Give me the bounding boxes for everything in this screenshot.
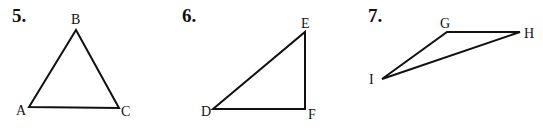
problem-number: 6. — [182, 5, 196, 26]
vertex-label-d: D — [201, 104, 211, 119]
problem-5: 5. A B C — [12, 5, 130, 119]
triangle-abc — [29, 30, 119, 108]
vertex-label-g: G — [440, 16, 450, 31]
problem-6: 6. D E F — [182, 5, 316, 122]
vertex-label-i: I — [369, 72, 374, 87]
triangle-def — [213, 32, 305, 109]
problem-number: 7. — [368, 5, 382, 26]
triangle-ghi — [382, 32, 520, 79]
vertex-label-h: H — [524, 26, 534, 41]
problem-number: 5. — [12, 5, 26, 26]
vertex-label-a: A — [16, 103, 27, 118]
triangle-worksheet: 5. A B C 6. D E F 7. G H I — [0, 0, 543, 133]
vertex-label-b: B — [71, 12, 80, 27]
vertex-label-c: C — [121, 104, 130, 119]
vertex-label-f: F — [308, 107, 316, 122]
vertex-label-e: E — [301, 16, 310, 31]
problem-7: 7. G H I — [368, 5, 534, 87]
